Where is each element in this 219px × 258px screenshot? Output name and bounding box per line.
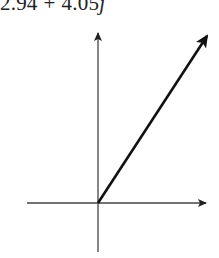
complex-plane-diagram: [0, 0, 219, 258]
phasor-vector: [98, 36, 207, 203]
